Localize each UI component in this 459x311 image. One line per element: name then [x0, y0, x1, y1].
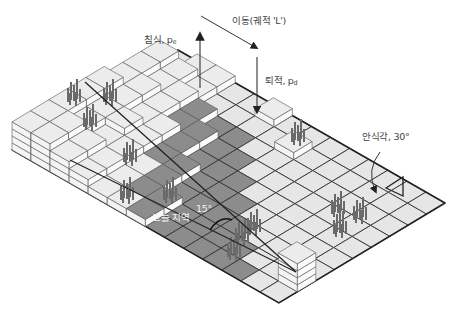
repose-angle-label: 안식각, 30°: [362, 129, 409, 143]
shadow-angle-label: 15°: [196, 203, 212, 214]
landscape-diagram: 침식, pe 이동(궤적 'L') 퇴적, pd 안식각, 30° 그늘 지역 …: [0, 0, 459, 311]
deposition-label: 퇴적, pd: [265, 73, 297, 87]
isometric-grid-illustration: [0, 0, 459, 311]
transport-label: 이동(궤적 'L'): [232, 13, 286, 27]
shadow-zone-label: 그늘 지역: [152, 210, 190, 224]
erosion-label: 침식, pe: [144, 32, 176, 46]
